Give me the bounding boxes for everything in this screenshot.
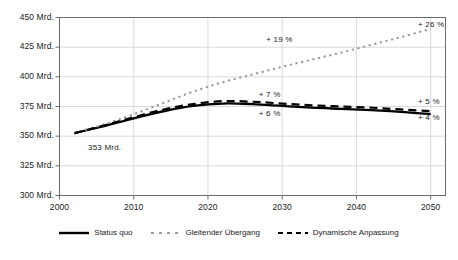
x-axis-ticks	[60, 196, 431, 200]
chart-annotation: + 7 %	[259, 90, 281, 99]
chart-container: 300 Mrd.325 Mrd.350 Mrd.375 Mrd.400 Mrd.…	[0, 0, 458, 260]
x-axis-tick-label: 2040	[331, 202, 381, 212]
x-axis-tick-label: 2030	[257, 202, 307, 212]
legend-label-dynamische-anpassung: Dynamische Anpassung	[313, 228, 399, 237]
line-chart-plot	[0, 0, 458, 260]
chart-annotation: + 26 %	[418, 20, 444, 29]
y-axis-tick-label: 400 Mrd.	[2, 71, 54, 81]
y-axis-tick-label: 325 Mrd.	[2, 160, 54, 170]
x-axis-tick-label: 2050	[406, 202, 456, 212]
legend-swatch-solid	[59, 229, 89, 237]
y-axis-tick-label: 425 Mrd.	[2, 41, 54, 51]
legend-swatch-dotted	[151, 229, 181, 237]
legend-swatch-dashed	[278, 229, 308, 237]
chart-annotation: + 5 %	[418, 97, 440, 106]
chart-annotation: + 6 %	[259, 109, 281, 118]
y-axis-tick-label: 300 Mrd.	[2, 190, 54, 200]
series-lines	[74, 29, 430, 133]
legend-item-gleitender-uebergang: Gleitender Übergang	[151, 228, 260, 237]
chart-annotation: + 4 %	[418, 113, 440, 122]
y-axis-tick-label: 375 Mrd.	[2, 101, 54, 111]
chart-annotation: 353 Mrd.	[88, 143, 121, 152]
series-line-dynamische-anpassung	[74, 101, 430, 133]
x-axis-tick-label: 2020	[183, 202, 233, 212]
x-axis-tick-label: 2010	[109, 202, 159, 212]
grid-lines	[60, 18, 446, 196]
series-line-gleitender-bergang	[74, 29, 430, 133]
x-axis-tick-label: 2000	[35, 202, 85, 212]
y-axis-ticks	[56, 18, 60, 196]
legend-label-gleitender-uebergang: Gleitender Übergang	[186, 228, 260, 237]
y-axis-tick-label: 350 Mrd.	[2, 130, 54, 140]
chart-annotation: + 19 %	[266, 35, 292, 44]
chart-legend: Status quo Gleitender Übergang Dynamisch…	[0, 228, 458, 237]
legend-item-dynamische-anpassung: Dynamische Anpassung	[278, 228, 399, 237]
y-axis-tick-label: 450 Mrd.	[2, 12, 54, 22]
legend-label-status-quo: Status quo	[94, 228, 132, 237]
legend-item-status-quo: Status quo	[59, 228, 132, 237]
